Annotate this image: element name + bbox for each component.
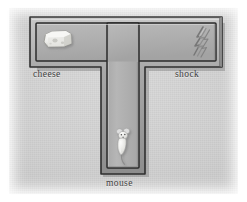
label-cheese: cheese — [33, 69, 61, 79]
label-mouse: mouse — [106, 178, 133, 188]
label-shock: shock — [175, 69, 199, 79]
cheese-wedge-icon — [44, 31, 72, 47]
t-maze-figure: cheese shock mouse — [0, 0, 247, 202]
t-maze-graphic — [0, 0, 247, 202]
